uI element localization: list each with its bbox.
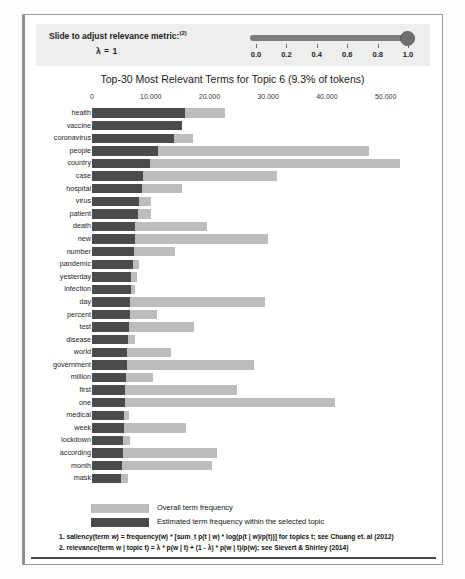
bar-row[interactable]: million xyxy=(23,371,442,384)
term-label[interactable]: world xyxy=(0,347,91,356)
term-label[interactable]: percent xyxy=(0,310,91,319)
term-label[interactable]: according xyxy=(0,448,91,457)
term-label[interactable]: month xyxy=(0,461,91,470)
bar-topic-frequency[interactable] xyxy=(92,184,142,193)
bar-topic-frequency[interactable] xyxy=(92,297,130,306)
bar-topic-frequency[interactable] xyxy=(92,360,127,369)
term-label[interactable]: lockdown xyxy=(0,435,91,444)
bar-topic-frequency[interactable] xyxy=(92,222,135,231)
bar-topic-frequency[interactable] xyxy=(92,423,124,432)
term-label[interactable]: test xyxy=(0,322,91,331)
legend-swatch-topic xyxy=(91,518,149,527)
bar-row[interactable]: week xyxy=(23,422,442,435)
term-label[interactable]: disease xyxy=(0,335,91,344)
slider-tick-label: 0.6 xyxy=(342,50,352,59)
term-label[interactable]: week xyxy=(0,423,91,432)
bar-row[interactable]: test xyxy=(23,321,442,334)
bar-topic-frequency[interactable] xyxy=(92,474,121,483)
bar-row[interactable]: medical xyxy=(23,409,442,422)
bar-row[interactable]: vaccine xyxy=(23,120,442,133)
bar-topic-frequency[interactable] xyxy=(92,134,174,143)
term-label[interactable]: pandemic xyxy=(0,259,91,268)
bar-topic-frequency[interactable] xyxy=(92,398,125,407)
bar-topic-frequency[interactable] xyxy=(92,322,129,331)
bar-row[interactable]: virus xyxy=(23,195,442,208)
term-label[interactable]: number xyxy=(0,247,91,256)
term-label[interactable]: vaccine xyxy=(0,121,91,130)
term-label[interactable]: hospital xyxy=(0,184,91,193)
bar-row[interactable]: country xyxy=(23,157,442,170)
term-label[interactable]: case xyxy=(0,171,91,180)
slider-tick-mark xyxy=(256,44,257,48)
bar-topic-frequency[interactable] xyxy=(92,385,125,394)
bar-topic-frequency[interactable] xyxy=(92,197,139,206)
bar-topic-frequency[interactable] xyxy=(92,260,133,269)
bar-topic-frequency[interactable] xyxy=(92,171,143,180)
term-label[interactable]: health xyxy=(0,108,91,117)
term-label[interactable]: million xyxy=(0,372,91,381)
slider-track[interactable] xyxy=(250,35,408,41)
term-label[interactable]: patient xyxy=(0,209,91,218)
term-label[interactable]: medical xyxy=(0,410,91,419)
term-label[interactable]: coronavirus xyxy=(0,133,91,142)
bar-topic-frequency[interactable] xyxy=(92,448,123,457)
bar-row[interactable]: government xyxy=(23,359,442,372)
bar-row[interactable]: first xyxy=(23,384,442,397)
bar-row[interactable]: lockdown xyxy=(23,434,442,447)
bar-row[interactable]: number xyxy=(23,246,442,259)
bar-row[interactable]: patient xyxy=(23,208,442,221)
term-label[interactable]: virus xyxy=(0,196,91,205)
bar-row[interactable]: mask xyxy=(23,472,442,485)
bar-row[interactable]: coronavirus xyxy=(23,132,442,145)
term-label[interactable]: death xyxy=(0,221,91,230)
term-label[interactable]: first xyxy=(0,385,91,394)
bar-topic-frequency[interactable] xyxy=(92,335,128,344)
bar-topic-frequency[interactable] xyxy=(92,209,138,218)
bar-topic-frequency[interactable] xyxy=(92,159,150,168)
bar-row[interactable]: yesterday xyxy=(23,271,442,284)
term-label[interactable]: mask xyxy=(0,473,91,482)
bar-overall-frequency[interactable] xyxy=(92,398,335,407)
term-label[interactable]: new xyxy=(0,234,91,243)
bar-row[interactable]: percent xyxy=(23,309,442,322)
slider-control[interactable]: 0.00.20.40.60.81.0 xyxy=(248,29,416,63)
relevance-slider-panel[interactable]: Slide to adjust relevance metric:(2) λ =… xyxy=(36,24,430,66)
bar-topic-frequency[interactable] xyxy=(92,436,123,445)
bar-row[interactable]: pandemic xyxy=(23,258,442,271)
term-label[interactable]: day xyxy=(0,297,91,306)
bar-row[interactable]: people xyxy=(23,145,442,158)
bar-topic-frequency[interactable] xyxy=(92,108,185,117)
bar-row[interactable]: disease xyxy=(23,334,442,347)
bar-row[interactable]: month xyxy=(23,460,442,473)
bar-topic-frequency[interactable] xyxy=(92,411,124,420)
term-label[interactable]: yesterday xyxy=(0,272,91,281)
bar-row[interactable]: one xyxy=(23,397,442,410)
term-label[interactable]: country xyxy=(0,158,91,167)
bar-topic-frequency[interactable] xyxy=(92,234,135,243)
bar-topic-frequency[interactable] xyxy=(92,348,127,357)
bar-row[interactable]: case xyxy=(23,170,442,183)
bar-row[interactable]: hospital xyxy=(23,183,442,196)
bar-topic-frequency[interactable] xyxy=(92,310,130,319)
bar-topic-frequency[interactable] xyxy=(92,146,158,155)
bar-topic-frequency[interactable] xyxy=(92,247,134,256)
legend-swatch-overall xyxy=(91,504,149,513)
bar-topic-frequency[interactable] xyxy=(92,121,182,130)
bar-row[interactable]: world xyxy=(23,346,442,359)
bar-row[interactable]: death xyxy=(23,220,442,233)
bar-row[interactable]: according xyxy=(23,447,442,460)
bar-row[interactable]: new xyxy=(23,233,442,246)
bar-topic-frequency[interactable] xyxy=(92,285,131,294)
term-label[interactable]: government xyxy=(0,360,91,369)
bar-topic-frequency[interactable] xyxy=(92,272,131,281)
bar-topic-frequency[interactable] xyxy=(92,461,122,470)
legend-label-topic: Estimated term frequency within the sele… xyxy=(157,517,324,526)
bar-row[interactable]: infection xyxy=(23,283,442,296)
bar-row[interactable]: day xyxy=(23,296,442,309)
term-label[interactable]: people xyxy=(0,146,91,155)
bar-row[interactable]: health xyxy=(23,107,442,120)
x-axis-tick-labels: 010.00020.00030.00040.00050.000 xyxy=(23,93,442,107)
term-label[interactable]: one xyxy=(0,398,91,407)
term-label[interactable]: infection xyxy=(0,284,91,293)
bar-topic-frequency[interactable] xyxy=(92,373,126,382)
